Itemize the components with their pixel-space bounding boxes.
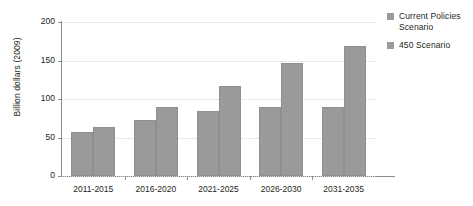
legend-item-450-scenario: 450 Scenario (387, 40, 473, 51)
bar (281, 63, 303, 176)
bar (71, 132, 93, 176)
bar-chart-figure: Billion dollars (2009) 0501001502002011-… (0, 0, 473, 206)
y-gridline (62, 61, 375, 63)
x-category-label: 2031-2035 (323, 184, 364, 194)
bar (259, 107, 281, 176)
y-tick-mark (58, 99, 62, 100)
bar (219, 86, 241, 176)
y-tick-label: 50 (46, 132, 55, 142)
y-tick-mark (58, 138, 62, 139)
plot-area: 0501001502002011-20152016-20202021-20252… (62, 22, 375, 176)
x-tick-mark (187, 176, 188, 180)
x-category-label: 2021-2025 (198, 184, 239, 194)
x-tick-mark (312, 176, 313, 180)
y-axis-title: Billion dollars (2009) (12, 12, 22, 142)
legend-label: Current PoliciesScenario (399, 11, 461, 33)
x-category-label: 2016-2020 (136, 184, 177, 194)
bar (322, 107, 344, 176)
bar (134, 120, 156, 176)
x-category-label: 2011-2015 (73, 184, 113, 194)
y-tick-mark (58, 61, 62, 62)
legend-label-line2: Scenario (399, 22, 433, 32)
legend-item-current-policies: Current PoliciesScenario (387, 11, 473, 33)
bar (344, 46, 366, 176)
y-tick-label: 0 (50, 170, 55, 180)
legend-label-line1: Current Policies (399, 11, 461, 21)
y-tick-label: 100 (41, 93, 55, 103)
x-category-label: 2026-2030 (261, 184, 302, 194)
y-tick-label: 200 (41, 16, 55, 26)
legend-label: 450 Scenario (399, 40, 450, 51)
legend-swatch-icon (387, 13, 394, 20)
y-tick-mark (58, 176, 62, 177)
bar (93, 127, 115, 176)
legend-label-line1: 450 Scenario (399, 40, 450, 50)
bar (156, 107, 178, 176)
bar (197, 111, 219, 176)
chart-legend: Current PoliciesScenario 450 Scenario (387, 11, 473, 58)
y-tick-mark (58, 22, 62, 23)
chart-title-remnant (130, 0, 260, 3)
x-tick-mark (125, 176, 126, 180)
y-gridline (62, 22, 375, 24)
legend-swatch-icon (387, 42, 394, 49)
y-tick-label: 150 (41, 55, 55, 65)
y-gridline (62, 176, 375, 178)
x-tick-mark (250, 176, 251, 180)
